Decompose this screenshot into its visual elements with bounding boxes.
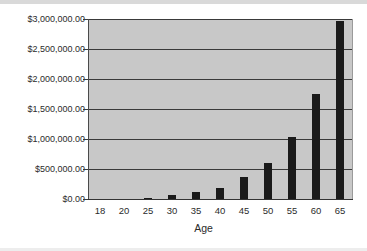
x-axis-tick-labels: 1820253035404550556065: [88, 205, 352, 219]
x-axis-line: [88, 199, 353, 200]
x-axis-tick-label: 60: [304, 205, 328, 217]
x-axis-tick-label: 30: [160, 205, 184, 217]
bar-slot: [112, 19, 136, 199]
bar: [312, 94, 320, 199]
x-axis-tick-label: 40: [208, 205, 232, 217]
x-axis-tick-label: 65: [328, 205, 352, 217]
bar: [192, 192, 200, 199]
bar-slot: [328, 19, 352, 199]
x-axis-tick-label: 18: [88, 205, 112, 217]
x-axis-tick-label: 55: [280, 205, 304, 217]
bar: [168, 195, 176, 199]
bar-slot: [208, 19, 232, 199]
bar-chart-figure: $0.00$500,000.00$1,000,000.00$1,500,000.…: [0, 0, 367, 251]
x-axis-tick-label: 50: [256, 205, 280, 217]
bar: [240, 177, 248, 199]
bar: [288, 137, 296, 199]
bar-slot: [136, 19, 160, 199]
bar: [264, 163, 272, 199]
bar-slot: [304, 19, 328, 199]
y-axis-tick-mark: [83, 199, 88, 200]
y-axis-tick-label: $3,000,000.00: [0, 15, 85, 24]
plot-right-border: [352, 19, 353, 200]
bar-slot: [88, 19, 112, 199]
bar-series: [88, 19, 352, 199]
bar: [144, 198, 152, 200]
bar-slot: [232, 19, 256, 199]
bar-slot: [280, 19, 304, 199]
bar-slot: [160, 19, 184, 199]
bar: [216, 188, 224, 199]
y-axis-tick-label: $1,000,000.00: [0, 135, 85, 144]
y-axis-tick-label: $2,000,000.00: [0, 75, 85, 84]
y-axis-tick-label: $500,000.00: [0, 165, 85, 174]
bar: [336, 21, 344, 199]
x-axis-tick-label: 45: [232, 205, 256, 217]
x-axis-tick-label: 35: [184, 205, 208, 217]
y-axis-tick-label: $2,500,000.00: [0, 45, 85, 54]
bar-slot: [184, 19, 208, 199]
bar-slot: [256, 19, 280, 199]
x-axis-tick-label: 20: [112, 205, 136, 217]
y-axis-tick-label: $1,500,000.00: [0, 105, 85, 114]
x-axis-tick-label: 25: [136, 205, 160, 217]
y-axis-tick-label: $0.00: [0, 195, 85, 204]
x-axis-title: Age: [0, 222, 367, 234]
top-edge-band: [0, 0, 367, 4]
